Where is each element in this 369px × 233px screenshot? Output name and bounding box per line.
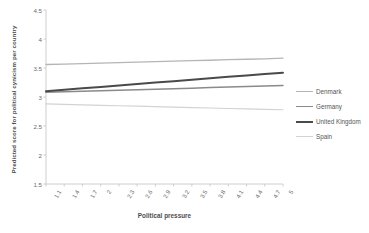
- x-axis-tick-label: 3.8: [217, 189, 226, 199]
- legend-item-united-kingdom[interactable]: United Kingdom: [296, 114, 368, 129]
- legend-swatch-line-icon: [296, 106, 313, 107]
- x-axis-title: Political pressure: [46, 212, 283, 219]
- legend-item-label: Denmark: [316, 88, 342, 95]
- legend-item-label: United Kingdom: [316, 118, 361, 125]
- x-axis-tick-label: 5: [288, 189, 295, 195]
- chart-container: Predicted score for political cynicism p…: [0, 0, 369, 233]
- x-axis-tick-label: 4.1: [235, 189, 244, 199]
- x-axis-tick-label: 3.5: [199, 189, 208, 199]
- legend-item-label: Germany: [316, 103, 342, 110]
- x-axis-tick-label: 4.7: [272, 189, 281, 199]
- legend-swatch-line-icon: [296, 136, 313, 137]
- x-axis-tick-label: 2.9: [163, 189, 172, 199]
- legend-swatch-line-icon: [296, 91, 313, 92]
- legend-item-denmark[interactable]: Denmark: [296, 84, 368, 99]
- legend-item-germany[interactable]: Germany: [296, 99, 368, 114]
- chart-legend: DenmarkGermanyUnited KingdomSpain: [296, 84, 368, 144]
- legend-swatch-line-icon: [296, 121, 313, 123]
- x-axis-tick-label: 3.2: [181, 189, 190, 199]
- x-axis-tick-label: 1.1: [53, 189, 62, 199]
- legend-item-label: Spain: [316, 133, 332, 140]
- x-axis-tick-label: 1.4: [71, 189, 80, 199]
- x-axis-tick-label: 2: [105, 189, 112, 195]
- legend-item-spain[interactable]: Spain: [296, 129, 368, 144]
- x-axis-tick-label: 1.7: [90, 189, 99, 199]
- x-axis-tick-label: 4.4: [254, 189, 263, 199]
- x-axis-tick-label: 2.6: [144, 189, 153, 199]
- x-axis-tick-label: 2.3: [126, 189, 135, 199]
